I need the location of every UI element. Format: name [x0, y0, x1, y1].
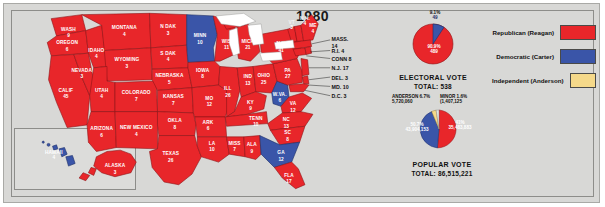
state-alabama	[244, 136, 261, 160]
svg-text:17: 17	[286, 179, 292, 184]
svg-text:MICH: MICH	[241, 39, 254, 44]
svg-text:COLORADO: COLORADO	[122, 90, 151, 95]
svg-text:8: 8	[201, 74, 204, 79]
svg-text:12: 12	[207, 102, 213, 107]
popular-carter-label: 41%35,483,883	[440, 120, 480, 131]
lake-erie	[260, 52, 283, 61]
electoral-reagan-label: 90.9%489	[419, 44, 449, 55]
state-minnesota	[187, 15, 218, 63]
svg-text:UTAH: UTAH	[95, 88, 109, 93]
svg-text:ARK: ARK	[203, 120, 214, 125]
svg-text:N.J. 17: N.J. 17	[332, 65, 349, 71]
svg-text:4: 4	[53, 155, 56, 160]
svg-text:NEW MEXICO: NEW MEXICO	[120, 125, 153, 130]
state-rhodeisland	[305, 47, 312, 55]
svg-text:3: 3	[114, 170, 117, 175]
state-alaska: ALASKA3	[79, 150, 136, 181]
svg-text:D.C. 3: D.C. 3	[332, 93, 347, 99]
svg-text:21: 21	[245, 45, 251, 50]
svg-text:7: 7	[233, 147, 236, 152]
state-kansas	[157, 88, 193, 113]
svg-text:S DAK: S DAK	[160, 51, 176, 56]
svg-text:4: 4	[304, 21, 307, 26]
svg-text:IDAHO: IDAHO	[88, 48, 104, 53]
svg-text:TENN: TENN	[249, 116, 263, 121]
svg-text:10: 10	[253, 122, 259, 127]
popular-reagan-label: 50.7%43,904,153	[400, 122, 434, 133]
svg-text:NEBRASKA: NEBRASKA	[155, 73, 183, 78]
svg-text:3: 3	[167, 31, 170, 36]
svg-text:N.H.: N.H.	[300, 16, 310, 21]
legend: Republican (Reagan) Democratic (Carter) …	[492, 22, 596, 94]
electoral-vote-chart: 90.9%489 9.1%49 ELECTORAL VOTE TOTAL: 53…	[394, 16, 472, 91]
svg-text:4: 4	[100, 94, 103, 99]
svg-text:SC: SC	[284, 130, 291, 135]
svg-text:KANSAS: KANSAS	[163, 94, 184, 99]
svg-text:KY: KY	[247, 100, 255, 105]
svg-text:4: 4	[312, 29, 315, 34]
minor-callout: MINOR 1.6%(1,407,125	[440, 94, 467, 105]
legend-swatch-independent	[570, 73, 597, 88]
state-hawaii: HAWAII4	[42, 141, 75, 166]
state-newjersey	[301, 58, 309, 75]
svg-text:WIS: WIS	[222, 39, 231, 44]
svg-text:27: 27	[285, 74, 291, 79]
svg-text:CONN 8: CONN 8	[332, 56, 352, 62]
state-nebraska	[152, 68, 192, 91]
svg-text:3: 3	[126, 64, 129, 69]
svg-text:WASH: WASH	[61, 27, 76, 32]
svg-text:12: 12	[290, 108, 296, 113]
svg-text:12: 12	[278, 157, 284, 162]
legend-label-republican: Republican (Reagan)	[492, 29, 554, 36]
svg-text:ILL: ILL	[224, 86, 232, 91]
electoral-carter-label: 9.1%49	[418, 10, 452, 21]
callout-labels: MASS.14 R.I. 4 CONN 8 N.J. 17 DEL. 3 MD.…	[332, 36, 352, 99]
svg-text:4: 4	[123, 32, 126, 37]
svg-text:7: 7	[135, 97, 138, 102]
legend-label-independent: Independent (Anderson)	[492, 77, 564, 84]
svg-text:10: 10	[197, 40, 203, 45]
state-northcarolina	[268, 112, 313, 131]
svg-text:13: 13	[284, 124, 290, 129]
popular-vote-chart: ANDERSON 6.7%5,720,060 MINOR 1.6%(1,407,…	[394, 96, 490, 178]
svg-text:4: 4	[135, 132, 138, 137]
state-delaware	[302, 76, 309, 84]
svg-text:9: 9	[250, 149, 253, 154]
svg-text:PA: PA	[284, 68, 291, 73]
svg-text:ALASKA: ALASKA	[105, 163, 126, 168]
svg-text:25: 25	[261, 80, 267, 85]
svg-text:9: 9	[67, 33, 70, 38]
svg-text:4: 4	[95, 54, 98, 59]
state-newmexico	[115, 112, 158, 149]
svg-text:3: 3	[80, 74, 83, 79]
svg-text:FLA: FLA	[284, 173, 294, 178]
svg-text:GA: GA	[277, 150, 285, 155]
svg-text:IND: IND	[244, 74, 253, 79]
svg-text:MASS.: MASS.	[332, 36, 349, 42]
election-map-screenshot: 1980 .R{fill:#e8262a;stroke:#8e1418;stro…	[0, 0, 605, 207]
svg-text:6: 6	[66, 47, 69, 52]
svg-text:ARIZONA: ARIZONA	[90, 126, 113, 131]
svg-text:6: 6	[207, 126, 210, 131]
svg-text:41: 41	[278, 48, 284, 53]
legend-swatch-republican	[560, 25, 596, 40]
svg-text:OHIO: OHIO	[257, 73, 270, 78]
svg-text:VA: VA	[290, 101, 297, 106]
legend-item-republican: Republican (Reagan)	[492, 22, 596, 42]
svg-text:5: 5	[168, 80, 171, 85]
svg-text:MD. 10: MD. 10	[332, 84, 349, 90]
svg-text:W.VA.: W.VA.	[273, 92, 287, 97]
svg-text:VT: VT	[288, 20, 294, 25]
svg-text:TEXAS: TEXAS	[162, 151, 179, 156]
svg-text:ALA: ALA	[247, 142, 258, 147]
svg-text:9: 9	[249, 106, 252, 111]
svg-text:LA: LA	[209, 141, 216, 146]
svg-text:ME: ME	[309, 23, 316, 28]
svg-text:6: 6	[278, 98, 281, 103]
legend-item-democratic: Democratic (Carter)	[492, 46, 596, 66]
svg-text:4: 4	[167, 57, 170, 62]
svg-text:3: 3	[290, 25, 293, 30]
svg-text:N.Y.: N.Y.	[276, 41, 285, 46]
svg-text:13: 13	[245, 81, 251, 86]
svg-text:6: 6	[100, 133, 103, 138]
